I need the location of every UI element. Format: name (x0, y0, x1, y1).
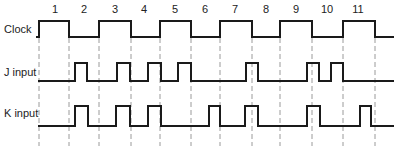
j-input-label: J input (4, 66, 36, 78)
period-label-8: 8 (263, 3, 269, 15)
timing-diagram: Clock J input K input 1234567891011 (0, 0, 396, 147)
period-label-2: 2 (81, 3, 87, 15)
period-label-10: 10 (321, 3, 333, 15)
period-label-3: 3 (112, 3, 118, 15)
k-input-waveform (38, 106, 394, 126)
period-label-1: 1 (52, 3, 58, 15)
period-label-11: 11 (352, 3, 363, 15)
clock-label: Clock (4, 23, 32, 35)
waveform-canvas (0, 0, 396, 147)
period-label-7: 7 (232, 3, 238, 15)
period-label-4: 4 (141, 3, 147, 15)
period-label-9: 9 (293, 3, 299, 15)
k-input-label: K input (4, 107, 38, 119)
period-label-5: 5 (172, 3, 178, 15)
period-label-6: 6 (202, 3, 208, 15)
clock-waveform (36, 21, 394, 37)
j-input-waveform (38, 63, 394, 81)
